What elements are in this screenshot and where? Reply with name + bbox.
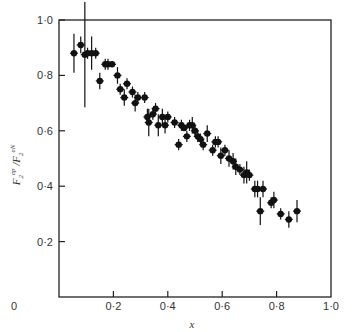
x-tick-label: 1·0: [323, 300, 339, 312]
y-axis-label: F2ep /F2eN: [9, 144, 25, 186]
scatter-chart: 0·20·40·60·81·0 00·20·40·60·81·0 x F2ep …: [0, 0, 352, 332]
x-tick-label: 0·6: [214, 300, 230, 312]
x-tick-label: 0·4: [160, 300, 176, 312]
y-tick-label: 0·4: [37, 180, 53, 192]
data-point: [259, 181, 267, 198]
data-point: [293, 200, 301, 222]
data-point: [123, 78, 131, 89]
data-point: [113, 67, 121, 84]
data-point: [141, 92, 149, 103]
x-tick-label: 0·8: [269, 300, 285, 312]
axes: [59, 20, 331, 297]
x-tick-label: 0: [11, 300, 17, 312]
data-point: [256, 197, 264, 225]
y-tick-label: 0·2: [37, 236, 53, 248]
data-point: [171, 117, 179, 128]
y-tick-label: 1·0: [37, 14, 53, 26]
data-points: [70, 2, 301, 228]
y-tick-label: 0·6: [37, 125, 53, 137]
x-axis-label: x: [189, 318, 195, 330]
data-point: [70, 34, 78, 73]
data-point: [96, 73, 104, 90]
plot-frame: [59, 20, 331, 297]
y-axis-ticks: 0·20·40·60·81·0: [37, 14, 65, 248]
data-point: [285, 211, 293, 228]
data-point: [277, 208, 285, 219]
data-point: [116, 84, 124, 95]
data-point: [92, 48, 100, 59]
x-tick-label: 0·2: [105, 300, 121, 312]
y-tick-label: 0·8: [37, 69, 53, 81]
x-axis-ticks: 00·20·40·60·81·0: [11, 291, 339, 312]
data-point: [77, 37, 85, 54]
data-point: [183, 131, 191, 142]
svg-text:F2ep /F2eN: F2ep /F2eN: [9, 144, 25, 186]
data-point: [175, 139, 183, 150]
